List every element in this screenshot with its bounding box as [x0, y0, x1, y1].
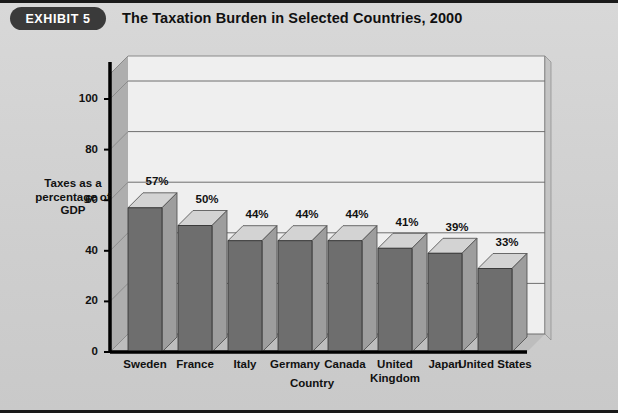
bar-united-states — [478, 254, 527, 353]
bar-italy — [228, 226, 277, 352]
exhibit-badge: EXHIBIT 5 — [10, 7, 106, 30]
bar-label-united-states: 33% — [484, 236, 530, 248]
x-tick-united-states: United States — [458, 358, 532, 372]
plot-left-wall — [110, 56, 128, 352]
bar-canada — [328, 226, 377, 352]
chart-title: The Taxation Burden in Selected Countrie… — [122, 8, 462, 29]
y-tick-80: 80 — [58, 143, 98, 155]
bar-sweden — [128, 193, 177, 352]
bar-label-sweden: 57% — [134, 175, 180, 187]
exhibit-figure: EXHIBIT 5 The Taxation Burden in Selecte… — [0, 0, 618, 413]
y-tick-40: 40 — [58, 244, 98, 256]
bar-france — [178, 211, 227, 353]
bar-japan — [428, 238, 477, 352]
bar-label-japan: 39% — [434, 221, 480, 233]
y-tick-20: 20 — [58, 294, 98, 306]
chart-plot-area: 0 20 40 60 80 100 Taxes as a percentage … — [0, 36, 618, 413]
exhibit-header: EXHIBIT 5 The Taxation Burden in Selecte… — [0, 6, 618, 36]
y-tick-100: 100 — [58, 92, 98, 104]
y-tick-0: 0 — [58, 345, 98, 357]
bar-label-germany: 44% — [284, 208, 330, 220]
y-axis-title: Taxes as a percentage of GDP — [34, 177, 112, 218]
bar-label-canada: 44% — [334, 208, 380, 220]
bar-united-kingdom — [378, 233, 427, 352]
bar-label-france: 50% — [184, 193, 230, 205]
bar-label-italy: 44% — [234, 208, 280, 220]
x-axis-title: Country — [272, 377, 352, 389]
bar-germany — [278, 226, 327, 352]
bar-label-united-kingdom: 41% — [384, 216, 430, 228]
